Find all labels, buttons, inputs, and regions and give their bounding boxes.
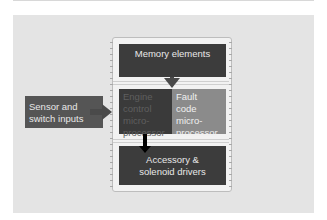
arrow-down-icon	[139, 134, 151, 153]
flow-arrows	[0, 0, 327, 220]
arrow-down-icon	[164, 77, 180, 88]
arrow-right-icon	[90, 104, 112, 120]
